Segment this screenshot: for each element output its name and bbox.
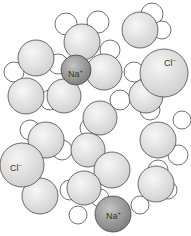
- hydration-diagram: Na+ Cl− Cl− Na+: [0, 0, 191, 236]
- molecule-canvas: Na+ Cl− Cl− Na+: [0, 0, 191, 236]
